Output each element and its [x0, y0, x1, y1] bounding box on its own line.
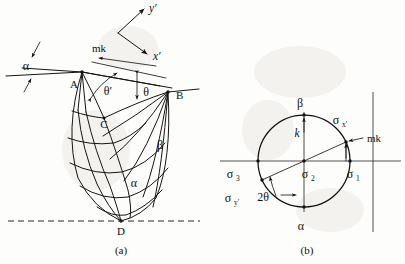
- label-axis-x-prime: x′: [152, 50, 161, 62]
- sigma-x-prime-glyph: σ: [333, 113, 340, 127]
- loaded-surface-line: [82, 72, 172, 88]
- sigma-x-prime-subscript: x′: [342, 120, 348, 129]
- figure-svg: A B C D α θ′ θ β α mk x′ y′ σ 1 σ 2 σ 3: [0, 0, 405, 264]
- sigma-2-point: [302, 159, 305, 162]
- point-B-marker: [166, 90, 169, 93]
- label-sigma-3: σ 3: [227, 167, 240, 183]
- label-sigma-x-prime: σ x′: [333, 113, 348, 129]
- inclined-face-line: [22, 68, 160, 86]
- label-k-shear: k: [294, 127, 300, 139]
- label-alpha-bottom: α: [298, 219, 305, 233]
- label-theta-prime: θ′: [104, 84, 113, 98]
- label-sigma-1: σ 1: [347, 167, 360, 183]
- sigma-2-subscript: 2: [311, 174, 315, 183]
- label-point-B: B: [176, 89, 183, 101]
- sigma-3-subscript: 3: [236, 174, 240, 183]
- sigma-x-prime-point: [344, 140, 347, 143]
- ground-surface-line: [6, 72, 82, 76]
- sigma-1-point: [348, 159, 351, 162]
- label-alpha-slipline-family: α: [131, 176, 138, 190]
- figure-root: A B C D α θ′ θ β α mk x′ y′ σ 1 σ 2 σ 3: [0, 0, 405, 264]
- sigma-y-prime-glyph: σ: [225, 191, 232, 205]
- label-axis-y-prime: y′: [148, 2, 157, 15]
- sigma-3-glyph: σ: [227, 167, 234, 181]
- caption-panel-a: (a): [115, 244, 128, 257]
- sigma-2-glyph: σ: [302, 167, 309, 181]
- alpha-arrow-upper: [32, 42, 40, 57]
- mk-indicator-arrow: [349, 138, 363, 141]
- caption-panel-b: (b): [301, 244, 314, 257]
- sigma-y-prime-subscript: y′: [234, 198, 240, 207]
- sigma-y-prime-point: [260, 178, 263, 181]
- label-two-theta: 2θ: [257, 190, 269, 204]
- beta-top-point: [302, 113, 305, 116]
- sigma-1-subscript: 1: [356, 174, 360, 183]
- label-mk-radial: mk: [367, 132, 382, 144]
- label-point-D: D: [117, 225, 125, 237]
- sigma-1-glyph: σ: [347, 167, 354, 181]
- label-sigma-y-prime: σ y′: [225, 191, 240, 207]
- label-point-A: A: [70, 78, 78, 90]
- alpha-arrow-lower: [24, 79, 31, 92]
- label-beta-slipline-family: β: [157, 138, 163, 152]
- alpha-bottom-point: [302, 205, 305, 208]
- ground-surface-line-right: [168, 89, 199, 92]
- label-mk-traction: mk: [92, 42, 107, 54]
- label-sigma-2: σ 2: [302, 167, 315, 183]
- label-alpha-surface-angle: α: [23, 59, 30, 73]
- label-theta: θ: [143, 85, 149, 99]
- label-beta-top: β: [297, 96, 303, 110]
- sigma-3-point: [256, 159, 259, 162]
- point-A-marker: [80, 70, 83, 73]
- label-point-C: C: [100, 118, 107, 130]
